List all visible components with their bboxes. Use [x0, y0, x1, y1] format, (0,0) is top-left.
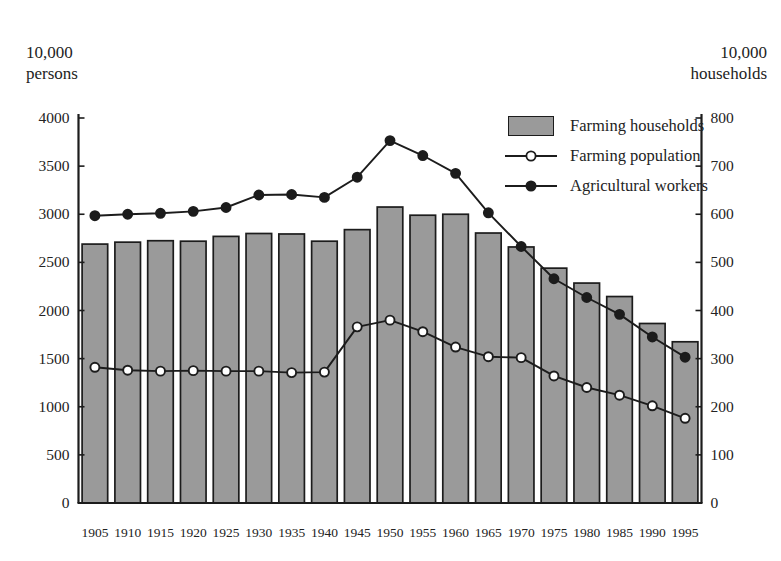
marker-1935 — [287, 368, 296, 377]
marker-1995 — [681, 353, 690, 362]
x-tick-1960: 1960 — [442, 525, 469, 541]
right-tick-600: 600 — [711, 205, 734, 223]
marker-1950 — [386, 136, 395, 145]
left-tick-1000: 1000 — [39, 398, 70, 416]
marker-1940 — [320, 368, 329, 377]
plot-area — [0, 0, 781, 561]
marker-1955 — [418, 151, 427, 160]
x-tick-1930: 1930 — [245, 525, 272, 541]
marker-1945 — [353, 322, 362, 331]
chart-legend: Farming households Farming population Ag… — [500, 115, 708, 197]
x-tick-1920: 1920 — [180, 525, 207, 541]
x-tick-1970: 1970 — [508, 525, 535, 541]
legend-item-farming-population: Farming population — [500, 145, 708, 167]
x-tick-1915: 1915 — [147, 525, 174, 541]
marker-1990 — [648, 401, 657, 410]
chart-figure: 10,000 persons 10,000 households 0500100… — [0, 0, 781, 561]
open-circle-marker-icon — [500, 147, 562, 165]
marker-1965 — [484, 208, 493, 217]
marker-1915 — [156, 209, 165, 218]
left-tick-500: 500 — [46, 446, 69, 464]
x-tick-1935: 1935 — [278, 525, 305, 541]
marker-1905 — [90, 211, 99, 220]
marker-1960 — [451, 343, 460, 352]
right-tick-0: 0 — [711, 494, 719, 512]
x-tick-1945: 1945 — [344, 525, 371, 541]
marker-1975 — [549, 274, 558, 283]
bar-1960 — [443, 214, 469, 503]
left-tick-2000: 2000 — [39, 302, 70, 320]
marker-1995 — [681, 414, 690, 423]
marker-1915 — [156, 367, 165, 376]
x-tick-1910: 1910 — [114, 525, 141, 541]
bar-1945 — [344, 230, 370, 503]
marker-1980 — [582, 383, 591, 392]
right-tick-300: 300 — [711, 350, 734, 368]
marker-1920 — [189, 366, 198, 375]
marker-1985 — [615, 310, 624, 319]
marker-1965 — [484, 352, 493, 361]
marker-1970 — [517, 242, 526, 251]
marker-1910 — [123, 366, 132, 375]
marker-1955 — [418, 327, 427, 336]
right-tick-100: 100 — [711, 446, 734, 464]
bar-1975 — [541, 268, 567, 503]
bar-1905 — [82, 244, 108, 503]
right-tick-200: 200 — [711, 398, 734, 416]
marker-1925 — [222, 203, 231, 212]
x-tick-1940: 1940 — [311, 525, 338, 541]
x-tick-1905: 1905 — [81, 525, 108, 541]
x-tick-1950: 1950 — [377, 525, 404, 541]
marker-1905 — [90, 363, 99, 372]
bar-swatch-icon — [500, 116, 562, 136]
marker-1920 — [189, 207, 198, 216]
bar-1990 — [640, 323, 666, 503]
bar-1970 — [508, 247, 534, 503]
right-tick-700: 700 — [711, 157, 734, 175]
marker-1910 — [123, 210, 132, 219]
legend-label-agricultural-workers: Agricultural workers — [570, 176, 708, 196]
left-tick-2500: 2500 — [39, 253, 70, 271]
x-tick-1965: 1965 — [475, 525, 502, 541]
bar-1980 — [574, 283, 600, 503]
x-tick-1990: 1990 — [639, 525, 666, 541]
left-tick-3500: 3500 — [39, 157, 70, 175]
marker-1970 — [517, 353, 526, 362]
marker-1990 — [648, 332, 657, 341]
bar-1965 — [476, 233, 502, 503]
right-tick-500: 500 — [711, 253, 734, 271]
bar-1955 — [410, 215, 436, 503]
marker-1960 — [451, 169, 460, 178]
legend-item-agricultural-workers: Agricultural workers — [500, 175, 708, 197]
x-tick-1975: 1975 — [540, 525, 567, 541]
marker-1925 — [222, 367, 231, 376]
right-tick-800: 800 — [711, 109, 734, 127]
marker-1940 — [320, 193, 329, 202]
legend-label-farming-households: Farming households — [570, 116, 704, 136]
marker-1950 — [386, 316, 395, 325]
marker-1930 — [254, 367, 263, 376]
marker-1930 — [254, 191, 263, 200]
x-tick-1925: 1925 — [213, 525, 240, 541]
left-tick-1500: 1500 — [39, 350, 70, 368]
marker-1975 — [549, 371, 558, 380]
bars-layer — [82, 207, 698, 503]
marker-1980 — [582, 293, 591, 302]
left-tick-4000: 4000 — [39, 109, 70, 127]
marker-1985 — [615, 391, 624, 400]
legend-item-farming-households: Farming households — [500, 115, 708, 137]
marker-1945 — [353, 173, 362, 182]
x-tick-1995: 1995 — [672, 525, 699, 541]
left-tick-0: 0 — [62, 494, 70, 512]
x-tick-1955: 1955 — [409, 525, 436, 541]
marker-1935 — [287, 190, 296, 199]
filled-circle-marker-icon — [500, 177, 562, 195]
left-tick-3000: 3000 — [39, 205, 70, 223]
legend-label-farming-population: Farming population — [570, 146, 701, 166]
x-tick-1980: 1980 — [573, 525, 600, 541]
x-tick-1985: 1985 — [606, 525, 633, 541]
bar-1950 — [377, 207, 403, 503]
right-tick-400: 400 — [711, 302, 734, 320]
